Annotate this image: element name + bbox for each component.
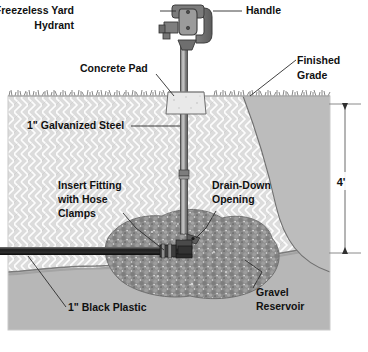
concrete-pad-shape	[166, 92, 206, 114]
black-plastic-supply-pipe	[0, 247, 186, 255]
tee-fitting	[176, 240, 192, 258]
label-concrete-pad: Concrete Pad	[80, 62, 148, 74]
dimension-arrow-top	[342, 103, 348, 110]
riser-couplings	[179, 170, 189, 179]
label-freezeless-yard-hydrant-line2: Hydrant	[34, 19, 74, 31]
label-gravel-reservoir-line1: Gravel	[256, 286, 289, 298]
label-gravel-reservoir-line2: Reservoir	[256, 300, 304, 312]
leader-concrete-pad	[156, 74, 174, 96]
dimension-arrow-bottom	[342, 247, 348, 254]
hydrant-cross-section-diagram: Freezeless Yard Hydrant Handle Concrete …	[0, 0, 368, 352]
leader-finished-grade	[250, 60, 296, 96]
depth-dimension: 4'	[329, 103, 361, 254]
insert-fitting-with-hose-clamps	[160, 244, 176, 258]
label-insert-fitting-line1: Insert Fitting	[58, 179, 122, 191]
label-finished-grade-line2: Grade	[297, 69, 328, 81]
diagram-root: Freezeless Yard Hydrant Handle Concrete …	[0, 0, 368, 352]
label-freezeless-yard-hydrant-line1: Freezeless Yard	[0, 4, 74, 16]
label-finished-grade-line1: Finished	[297, 54, 340, 66]
label-insert-fitting-line3: Clamps	[58, 207, 96, 219]
galvanized-steel-riser	[181, 44, 188, 234]
label-drain-down-line2: Opening	[212, 193, 255, 205]
label-drain-down-line1: Drain-Down	[212, 179, 271, 191]
label-freezeless-yard-hydrant: Freezeless Yard Hydrant	[0, 4, 74, 31]
label-insert-fitting-line2: with Hose	[57, 193, 108, 205]
hydrant-head-assembly	[159, 5, 212, 50]
label-finished-grade: Finished Grade	[297, 54, 340, 81]
dimension-value: 4'	[337, 176, 346, 188]
label-handle: Handle	[246, 4, 281, 16]
label-galvanized-steel: 1" Galvanized Steel	[27, 119, 124, 131]
label-black-plastic: 1" Black Plastic	[68, 301, 147, 313]
